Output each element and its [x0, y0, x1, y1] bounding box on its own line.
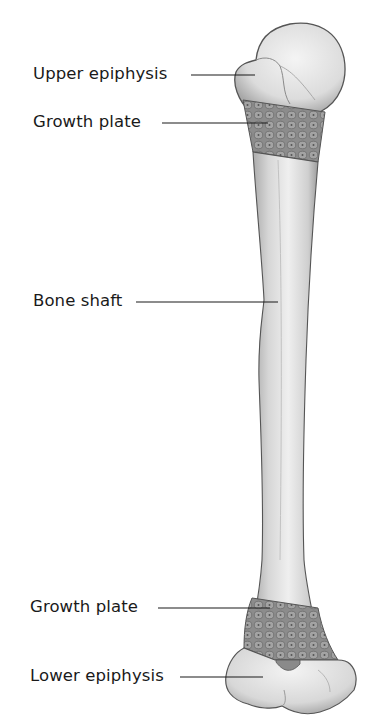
- label-bone-shaft: Bone shaft: [33, 293, 122, 310]
- label-growth-plate-lower: Growth plate: [30, 599, 138, 616]
- bone-shaft-shape: [252, 152, 318, 640]
- upper-epiphysis-shape: [235, 23, 345, 112]
- label-upper-epiphysis: Upper epiphysis: [33, 66, 167, 83]
- label-growth-plate-upper: Growth plate: [33, 114, 141, 131]
- bone-illustration: [0, 0, 387, 727]
- lower-growth-plate-shape: [244, 598, 338, 660]
- label-lower-epiphysis: Lower epiphysis: [30, 668, 164, 685]
